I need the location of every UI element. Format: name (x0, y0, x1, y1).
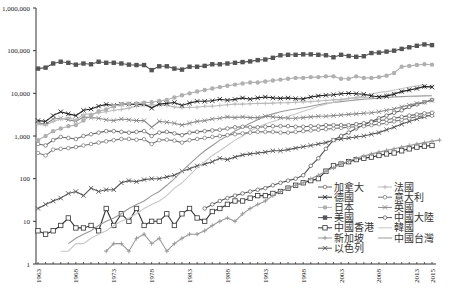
data-point (89, 223, 93, 227)
data-point (36, 142, 40, 146)
data-point (248, 59, 252, 63)
y-tick-label: 10,000 (11, 90, 31, 98)
data-point (385, 114, 389, 118)
data-point (36, 151, 40, 155)
legend-label: 新加坡 (334, 232, 364, 244)
data-point (384, 49, 388, 53)
data-point (233, 132, 237, 136)
data-point (339, 123, 343, 127)
data-point (172, 95, 176, 99)
data-point (104, 140, 108, 144)
data-point (59, 117, 63, 121)
data-point (233, 82, 237, 86)
data-point (233, 194, 237, 198)
data-point (74, 145, 78, 149)
series-加拿大 (36, 111, 434, 147)
data-point (165, 130, 169, 134)
data-point (135, 130, 139, 134)
data-point (226, 196, 230, 200)
data-point (347, 123, 351, 127)
data-point (437, 138, 441, 142)
data-point (218, 85, 222, 89)
data-point (279, 124, 283, 128)
data-point (225, 202, 229, 206)
data-point (81, 193, 85, 197)
data-point (187, 206, 191, 210)
data-point (195, 89, 199, 93)
legend-item: 日本 (318, 201, 354, 213)
data-point (187, 105, 191, 109)
data-point (415, 113, 419, 117)
data-point (317, 124, 321, 128)
data-point (240, 102, 244, 106)
data-point (74, 137, 78, 141)
data-point (422, 62, 426, 66)
data-point (279, 131, 283, 135)
data-point (165, 98, 169, 102)
data-point (369, 51, 373, 55)
data-point (377, 50, 381, 54)
data-point (165, 64, 169, 68)
data-point (309, 52, 313, 56)
data-point (210, 86, 214, 90)
data-point (36, 138, 40, 142)
data-point (43, 202, 47, 206)
data-point (36, 229, 40, 233)
data-point (150, 142, 154, 146)
data-point (134, 206, 138, 210)
data-point (135, 138, 139, 142)
data-point (36, 66, 40, 70)
legend-label: 美國 (334, 211, 354, 223)
data-point (210, 135, 214, 139)
data-point (240, 60, 244, 64)
data-point (339, 53, 343, 57)
data-point (172, 105, 176, 109)
data-point (51, 61, 55, 65)
data-point (392, 111, 396, 115)
data-point (377, 75, 381, 79)
data-point (43, 65, 47, 69)
legend-item: 中國大陸 (378, 211, 434, 223)
data-point (51, 229, 55, 233)
data-point (195, 130, 199, 134)
data-point (346, 96, 350, 100)
axes: 1101001,00010,000100,0001,000,0001963196… (2, 5, 437, 284)
data-point (256, 202, 260, 206)
data-point (286, 131, 290, 135)
data-point (392, 71, 396, 75)
data-point (323, 236, 327, 240)
x-tick-label: 1968 (72, 269, 80, 284)
data-point (59, 147, 63, 151)
data-point (324, 53, 328, 57)
data-point (392, 116, 396, 120)
data-point (89, 62, 93, 66)
series-美國 (36, 42, 434, 72)
data-point (256, 188, 260, 192)
data-point (354, 122, 358, 126)
data-point (82, 144, 86, 148)
data-point (248, 196, 252, 200)
data-point (203, 207, 207, 211)
data-point (157, 64, 161, 68)
data-point (210, 203, 214, 207)
data-point (89, 113, 93, 117)
data-point (195, 65, 199, 69)
data-point (331, 74, 335, 78)
data-point (430, 143, 434, 147)
data-point (233, 199, 237, 203)
data-point (51, 129, 55, 133)
data-point (210, 209, 214, 213)
legend-label: 法國 (394, 181, 414, 193)
data-point (346, 77, 350, 81)
data-point (51, 113, 55, 117)
data-point (399, 65, 403, 69)
data-point (323, 215, 327, 219)
x-tick-label: 1988 (224, 269, 232, 284)
data-point (248, 102, 252, 106)
data-point (346, 54, 350, 58)
data-point (104, 107, 108, 111)
data-point (225, 84, 229, 88)
data-point (392, 48, 396, 52)
series-layer (36, 42, 442, 253)
data-point (225, 103, 229, 107)
